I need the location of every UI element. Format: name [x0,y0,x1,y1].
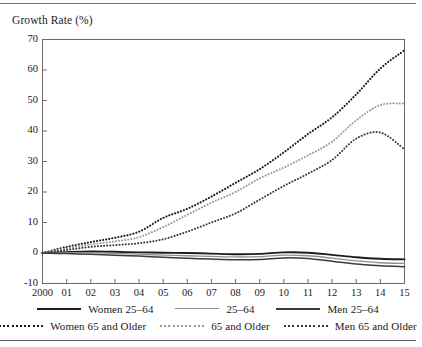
y-tick-label: 0 [2,246,38,257]
chart-legend: Women 25–64 25–64 Men 25–64 Women 65 and… [0,300,416,334]
bottom-rule [0,340,416,341]
series-line [43,132,405,253]
legend-label-men-65-older: Men 65 and Older [335,320,417,332]
legend-label-25-64: 25–64 [226,303,254,315]
series-line [43,103,405,253]
legend-swatch-65-older [160,322,204,330]
legend-swatch-women-65-older [0,322,43,330]
legend-item-women-25-64[interactable]: Women 25–64 [37,303,153,315]
y-tick-label: 20 [2,185,38,196]
y-tick-label: 70 [2,33,38,44]
legend-swatch-25-64 [175,305,219,313]
legend-row-solid: Women 25–64 25–64 Men 25–64 [0,300,416,317]
legend-swatch-men-25-64 [276,305,320,313]
legend-label-women-25-64: Women 25–64 [88,303,153,315]
legend-item-women-65-older[interactable]: Women 65 and Older [0,320,146,332]
y-tick-label: 40 [2,124,38,135]
series-line [43,50,405,253]
y-tick-label: 60 [2,63,38,74]
y-tick-label: 10 [2,216,38,227]
legend-item-men-25-64[interactable]: Men 25–64 [276,303,378,315]
legend-label-women-65-older: Women 65 and Older [50,320,146,332]
y-tick-label: 30 [2,155,38,166]
legend-label-65-older: 65 and Older [211,320,270,332]
legend-item-men-65-older[interactable]: Men 65 and Older [284,320,417,332]
legend-swatch-men-65-older [284,322,328,330]
x-tick-label: 15 [388,287,422,298]
legend-swatch-women-25-64 [37,305,81,313]
legend-item-65-older[interactable]: 65 and Older [160,320,270,332]
legend-item-25-64[interactable]: 25–64 [175,303,254,315]
y-tick-label: 50 [2,94,38,105]
legend-row-dotted: Women 65 and Older 65 and Older Men 65 a… [0,317,416,334]
legend-label-men-25-64: Men 25–64 [327,303,378,315]
